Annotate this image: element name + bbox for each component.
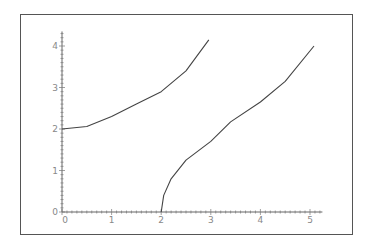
line-chart: 01234501234 [0,0,371,247]
y-tick-label: 0 [52,207,58,217]
y-tick-label: 2 [52,124,58,134]
y-tick-label: 3 [52,83,58,93]
y-tick-label: 4 [52,41,58,51]
curve-2-line [161,46,314,212]
x-tick-label: 5 [307,215,313,225]
x-tick-label: 4 [258,215,264,225]
x-tick-label: 0 [62,215,68,225]
x-tick-label: 2 [158,215,164,225]
curve-1-line [62,40,209,129]
y-tick-label: 1 [52,166,58,176]
x-tick-label: 1 [109,215,115,225]
x-tick-label: 3 [208,215,214,225]
